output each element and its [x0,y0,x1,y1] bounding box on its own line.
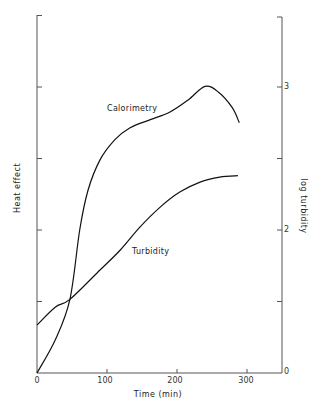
turbidity-annotation: Turbidity [132,247,169,256]
calorimetry-annotation: Calorimetry [107,104,157,113]
x-tick-label-100: 100 [97,376,112,385]
x-axis-label: Time (min) [134,390,182,399]
right-tick-label-2: 2 [284,225,289,234]
x-tick-label-200: 200 [167,376,182,385]
y-axis-label-right: log turbidity [299,178,308,233]
right-tick-label-3: 3 [284,82,289,91]
y-axis-label-left: Heat effect [13,163,22,213]
chart-plot-area [0,0,319,412]
right-tick-label-0: 0 [284,367,289,376]
x-tick-label-0: 0 [34,376,39,385]
x-tick-label-300: 300 [238,376,253,385]
